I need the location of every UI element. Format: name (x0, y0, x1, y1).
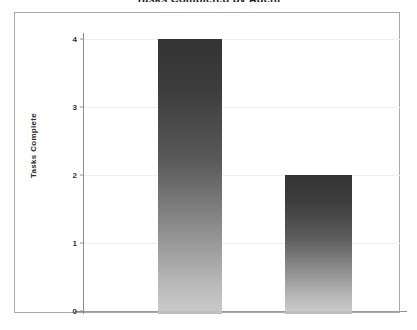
plot-area: 43210 (84, 39, 401, 311)
gridline-4 (84, 39, 401, 40)
y-axis-title: Tasks Complete (29, 109, 38, 183)
y-tick-mark-3 (80, 107, 84, 108)
y-axis-tick-label: 2 (73, 171, 77, 180)
y-axis-tick-label: 1 (73, 239, 77, 248)
bar-1[interactable] (158, 39, 222, 311)
bar-2[interactable] (285, 175, 352, 311)
y-tick-mark-4 (80, 39, 84, 40)
gridline-0 (84, 311, 401, 312)
figure-bottom-margin (0, 314, 417, 330)
gridline-2 (84, 175, 401, 176)
y-tick-mark-0 (80, 311, 84, 312)
y-axis-tick-label: 4 (73, 35, 77, 44)
gridline-1 (84, 243, 401, 244)
y-tick-mark-1 (80, 243, 84, 244)
y-tick-mark-2 (80, 175, 84, 176)
chart-title: Tasks Completed by Agent (0, 0, 417, 2)
chart-frame: Tasks Complete 43210 (14, 12, 400, 313)
y-axis-tick-label: 3 (73, 103, 77, 112)
gridline-3 (84, 107, 401, 108)
